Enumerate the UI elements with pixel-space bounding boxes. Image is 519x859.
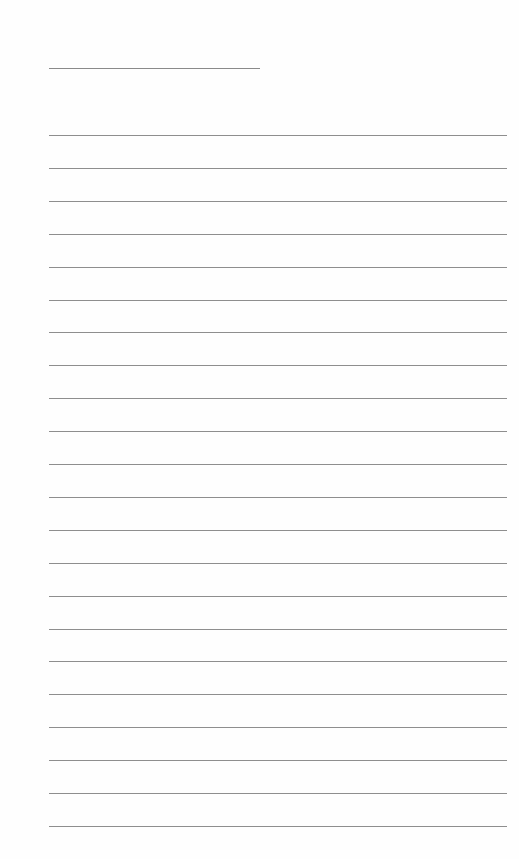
ruled-line	[49, 431, 507, 432]
ruled-line	[49, 793, 507, 794]
ruled-line	[49, 234, 507, 235]
ruled-line	[49, 464, 507, 465]
lined-paper-page	[0, 0, 519, 859]
ruled-line	[49, 826, 507, 827]
ruled-line	[49, 760, 507, 761]
ruled-line	[49, 332, 507, 333]
ruled-line	[49, 530, 507, 531]
ruled-line	[49, 497, 507, 498]
ruled-line	[49, 135, 507, 136]
ruled-line	[49, 201, 507, 202]
ruled-line	[49, 267, 507, 268]
ruled-line	[49, 365, 507, 366]
ruled-line	[49, 727, 507, 728]
ruled-line	[49, 300, 507, 301]
ruled-line	[49, 563, 507, 564]
ruled-line	[49, 694, 507, 695]
ruled-line	[49, 168, 507, 169]
title-line	[49, 68, 260, 69]
ruled-line	[49, 629, 507, 630]
ruled-line	[49, 398, 507, 399]
ruled-line	[49, 661, 507, 662]
ruled-line	[49, 596, 507, 597]
